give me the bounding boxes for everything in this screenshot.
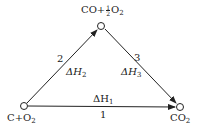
node-start-circle — [21, 103, 28, 110]
edge-path3-number: 3 — [134, 53, 140, 63]
edge-path1-arrow — [28, 106, 175, 107]
edge-path2-enthalpy: ΔH2 — [66, 67, 86, 77]
edge-path1-number: 1 — [100, 110, 106, 120]
node-end-label: CO2 — [170, 113, 190, 123]
edge-path3-enthalpy: ΔH3 — [121, 67, 141, 77]
edge-path3-arrow — [105, 29, 176, 103]
edge-path2-number: 2 — [57, 54, 63, 64]
fraction-one-half: 12 — [106, 5, 110, 16]
edge-path1-enthalpy: ΔH1 — [93, 94, 113, 104]
node-middle-label: CO+12O2 — [81, 5, 124, 16]
node-middle-circle — [98, 23, 105, 30]
node-start-label: C+O2 — [7, 113, 36, 123]
node-end-circle — [177, 104, 184, 111]
edge-path2-arrow — [27, 30, 97, 103]
